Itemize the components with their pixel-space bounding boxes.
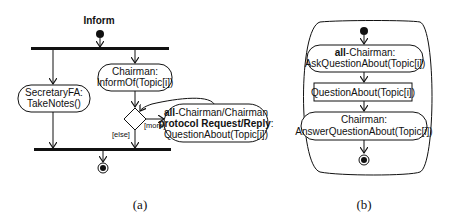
diagram-a-title: Inform: [83, 15, 114, 26]
object-node-question-about: QuestionAbout(Topic[i]): [311, 83, 415, 101]
action-label: all: [164, 107, 175, 118]
action-answer-question-about: Chairman: AnswerQuestionAbout(Topic[i]): [295, 112, 432, 140]
action-label: AnswerQuestionAbout(Topic[i]): [295, 126, 432, 137]
final-node: [98, 163, 108, 173]
action-label: -Chairman:: [346, 47, 395, 58]
action-ask-question-about: all-Chairman: AskQuestionAbout(Topic[i]): [305, 45, 426, 72]
action-label: :: [271, 118, 274, 129]
final-node: [359, 155, 369, 165]
decision-node: [124, 108, 146, 130]
svg-text:all-Chairman/Chairman: all-Chairman/Chairman: [164, 107, 268, 118]
caption-b: (b): [356, 197, 371, 212]
initial-node: [96, 30, 104, 38]
diagram-b: all-Chairman: AskQuestionAbout(Topic[i])…: [295, 21, 432, 213]
action-label: protocol Request/Reply: [158, 118, 271, 129]
action-label: QuestionAbout(Topic[i]): [164, 129, 268, 140]
fork-bar: [31, 47, 169, 50]
action-label: Chairman:: [112, 66, 158, 77]
action-label: TakeNotes(): [27, 98, 81, 109]
action-secretary-take-notes: SecretaryFA: TakeNotes(): [18, 85, 90, 112]
action-label: SecretaryFA:: [25, 87, 83, 98]
svg-text:all-Chairman:: all-Chairman:: [335, 47, 396, 58]
join-bar: [34, 148, 171, 151]
action-label: AskQuestionAbout(Topic[i]): [305, 58, 426, 69]
action-label: all: [335, 47, 346, 58]
diagram-a: Inform Chairman: InformOf(Topic[i]) Secr…: [18, 15, 274, 212]
action-label: InformOf(Topic[i]): [97, 77, 174, 88]
guard-else: [else]: [112, 130, 130, 139]
action-label: Chairman:: [341, 114, 387, 125]
action-label: -Chairman/Chairman: [175, 107, 268, 118]
action-question-about: all-Chairman/Chairman protocol Request/R…: [158, 104, 273, 142]
caption-a: (a): [133, 197, 147, 212]
initial-node: [360, 27, 368, 35]
svg-text:protocol Request/Reply:: protocol Request/Reply:: [158, 118, 273, 129]
action-chairman-inform-of: Chairman: InformOf(Topic[i]): [97, 64, 174, 91]
object-label: QuestionAbout(Topic[i]): [311, 87, 415, 98]
